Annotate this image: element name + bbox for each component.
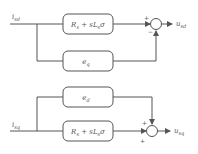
block-ed: ed [63,87,113,107]
sign-top-left: + [144,14,149,21]
input-label-isd: isd [12,13,20,22]
block-diagram: isd Rs + sLsσ eq + − usd isq ed Rs + sLs… [0,0,198,154]
sign-bottom-top: + [142,119,147,126]
svg-text:Rs + sLsσ: Rs + sLsσ [70,21,105,30]
block-top-impedance: Rs + sLsσ [63,14,113,34]
output-label-usq: usq [174,127,184,137]
eq-to-top-summer [113,31,156,61]
sign-top-bottom: − [148,28,153,35]
summer-bottom [147,126,158,137]
sign-bottom-left: + [140,137,145,144]
svg-text:Rs + sLsσ: Rs + sLsσ [70,128,105,137]
block-bottom-impedance: Rs + sLsσ [63,121,113,141]
output-label-usd: usd [176,20,186,29]
input-label-isq: isq [12,121,20,131]
block-eq: eq [63,51,113,71]
